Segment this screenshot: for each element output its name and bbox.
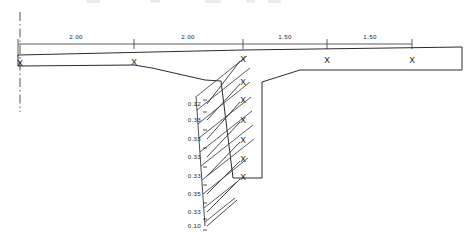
x-marker-depth-4: X — [240, 115, 246, 125]
x-marker-depth-2: X — [240, 77, 246, 87]
depth-label-3: 0.33 — [188, 135, 202, 142]
x-marker-station-4: X — [324, 55, 330, 65]
depth-label-7: 0.33 — [188, 208, 202, 215]
depth-label-5: 0.33 — [188, 172, 202, 179]
x-marker-station-5: X — [409, 55, 415, 65]
x-marker-left-end: X — [17, 58, 23, 68]
x-marker-depth-6: X — [240, 154, 246, 164]
depth-dimension-column: 0.12 0.33 0.33 0.33 0.33 0.35 0.33 0.10 — [188, 100, 202, 229]
x-marker-depth-5: X — [240, 135, 246, 145]
dimension-label-4: 1.50 — [363, 33, 377, 40]
x-marker-depth-3: X — [240, 95, 246, 105]
drawing-canvas: 2.00 2.00 1.50 1.50 — [0, 0, 476, 243]
station-x-markers: X X X X — [17, 55, 415, 68]
x-marker-depth-7: X — [240, 172, 246, 182]
x-marker-depth-1: X — [240, 54, 246, 64]
depth-label-8: 0.10 — [188, 222, 202, 229]
scan-artifact — [86, 0, 281, 3]
dimension-label-2: 2.00 — [181, 33, 195, 40]
dimension-label-3: 1.50 — [278, 33, 292, 40]
depth-label-4: 0.33 — [188, 153, 202, 160]
depth-label-2: 0.33 — [188, 116, 202, 123]
depth-label-1: 0.12 — [188, 100, 202, 107]
x-marker-station-2: X — [131, 57, 137, 67]
cross-section-drawing: 2.00 2.00 1.50 1.50 — [0, 0, 476, 243]
top-dimension-chain: 2.00 2.00 1.50 1.50 — [18, 33, 412, 56]
depth-label-6: 0.35 — [188, 190, 202, 197]
dimension-label-1: 2.00 — [69, 33, 83, 40]
